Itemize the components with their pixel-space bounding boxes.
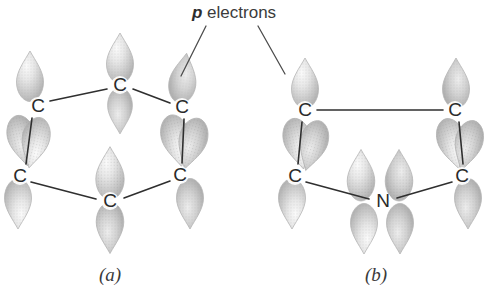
structure-b-pyrrole-ring — [279, 58, 487, 254]
atom-a-c-lower-left: C — [13, 165, 27, 186]
atom-a-c-bottom: C — [103, 190, 117, 211]
leader-to-structure-b — [258, 26, 285, 74]
atom-a-c-upper-left: C — [31, 95, 45, 116]
caption-a: (a) — [99, 264, 121, 286]
bond-a-5 — [31, 182, 96, 199]
orbital-lobes-layer — [3, 33, 487, 254]
bond-a-2 — [133, 89, 170, 103]
bond-a-6 — [124, 181, 170, 198]
lobe-a-lower-left-down — [5, 179, 32, 230]
atom-b-n-bottom: N — [376, 190, 390, 211]
figure-captions-layer: (a)(b) — [99, 264, 387, 286]
leader-lines-layer — [181, 26, 285, 76]
lobe-b-lower-left-down — [279, 179, 306, 230]
caption-b: (b) — [365, 264, 387, 286]
lobe-a-upper-left-up — [17, 51, 44, 102]
lobe-b-nitrogen-up-left — [347, 149, 375, 201]
lobe-a-lower-right-down — [177, 179, 204, 230]
atom-a-c-top: C — [113, 74, 127, 95]
lobe-b-lower-right-down — [455, 179, 482, 230]
lobe-b-nitrogen-down-right — [387, 204, 414, 255]
figure-root: CCCCCCCCCCN (a)(b) p electrons — [0, 0, 487, 298]
structure-a-benzene-ring — [3, 33, 212, 254]
p-electrons-annotation: p electrons — [191, 3, 276, 22]
lobe-b-nitrogen-down-left — [351, 204, 378, 255]
leader-to-structure-a — [181, 26, 206, 76]
atom-b-c-lower-right: C — [455, 165, 469, 186]
atom-a-c-upper-right: C — [175, 96, 189, 117]
atom-b-c-top-left: C — [298, 99, 312, 120]
p-electrons-label: p electrons — [191, 3, 276, 22]
orbital-diagram-canvas: CCCCCCCCCCN (a)(b) p electrons — [0, 0, 487, 298]
p-electrons-label-plain: electrons — [202, 3, 276, 22]
bond-a-1 — [50, 89, 107, 101]
atom-a-c-lower-right: C — [173, 164, 187, 185]
p-electrons-label-italic: p — [191, 3, 202, 22]
atom-b-c-top-right: C — [448, 99, 462, 120]
atom-b-c-lower-left: C — [288, 165, 302, 186]
